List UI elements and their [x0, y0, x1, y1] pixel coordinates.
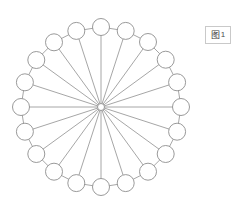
spoke-edge [54, 42, 101, 107]
graph-node [68, 175, 85, 192]
graph-node [173, 99, 190, 116]
spoke-edge [101, 60, 166, 107]
graph-node [157, 146, 174, 163]
graph-node [169, 123, 186, 140]
graph-node [13, 99, 30, 116]
figure-caption-number: 1 [221, 31, 225, 39]
spoke-edge [25, 82, 101, 107]
figure-caption-box: 图 1 [205, 26, 231, 44]
spoke-edge [101, 31, 126, 107]
spoke-edge [36, 107, 101, 154]
graph-node [117, 22, 134, 39]
graph-node [117, 175, 134, 192]
graph-node [46, 34, 63, 51]
graph-node [16, 123, 33, 140]
graph-node [16, 74, 33, 91]
figure-canvas: 图 1 [0, 0, 242, 214]
graph-node [157, 51, 174, 68]
center-hub-node [98, 104, 105, 111]
center-hub-layer [98, 104, 105, 111]
spoke-edge [101, 107, 166, 154]
graph-node [93, 179, 110, 196]
spoke-edge [76, 31, 101, 107]
spoke-edge [36, 60, 101, 107]
graph-node [140, 34, 157, 51]
spoke-edge [101, 82, 177, 107]
spoke-edge [101, 107, 148, 172]
spoke-edge [54, 107, 101, 172]
spoke-edge [101, 107, 126, 183]
graph-node [28, 146, 45, 163]
graph-node [68, 22, 85, 39]
graph-node [28, 52, 45, 69]
spoke-edge [25, 107, 101, 132]
spoke-edge [76, 107, 101, 183]
spoke-edge [101, 42, 148, 107]
graph-node [93, 19, 110, 36]
graph-node [140, 163, 157, 180]
figure-caption-glyph: 图 [211, 31, 220, 40]
graph-node [46, 163, 63, 180]
graph-node [169, 74, 186, 91]
spoke-edge [101, 107, 177, 132]
